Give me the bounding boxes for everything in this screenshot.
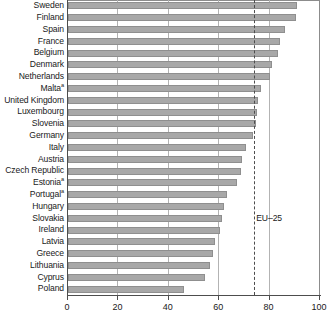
category-label: Ireland [0, 225, 64, 234]
bar [68, 132, 253, 139]
x-tick-20 [117, 296, 118, 300]
bar [68, 26, 285, 33]
x-tick-40 [168, 296, 169, 300]
bar [68, 156, 242, 163]
category-label: Finland [0, 13, 64, 22]
category-label: Slovakia [0, 214, 64, 223]
bar [68, 227, 220, 234]
x-tick-60 [218, 296, 219, 300]
bar [68, 179, 237, 186]
bar [68, 97, 258, 104]
x-tick-0 [67, 296, 68, 300]
bar [68, 85, 261, 92]
category-label: Austria [0, 155, 64, 164]
x-tick-80 [269, 296, 270, 300]
bar [68, 109, 257, 116]
category-label: Denmark [0, 60, 64, 69]
plot-top-border [67, 0, 320, 1]
x-tick-100 [319, 296, 320, 300]
category-label: France [0, 37, 64, 46]
bar [68, 286, 184, 293]
category-label: Spain [0, 25, 64, 34]
category-label: Latvia [0, 237, 64, 246]
bar [68, 250, 213, 257]
plot-right-border [319, 0, 320, 295]
plot-area: 020406080100 EU–25 [67, 0, 320, 295]
bar [68, 73, 270, 80]
bar [68, 61, 272, 68]
bar [68, 14, 296, 21]
category-label: Luxembourg [0, 107, 64, 116]
bar [68, 203, 224, 210]
category-label: Italy [0, 143, 64, 152]
x-axis-line [67, 295, 321, 296]
eu-25-reference-label: EU–25 [256, 213, 282, 223]
bar [68, 168, 241, 175]
category-label: Portugala [0, 190, 64, 199]
x-tick-label-100: 100 [311, 302, 326, 312]
x-tick-label-60: 60 [213, 302, 223, 312]
bar [68, 238, 215, 245]
category-label: United Kingdom [0, 96, 64, 105]
x-tick-label-40: 40 [163, 302, 173, 312]
category-label: Hungary [0, 202, 64, 211]
x-tick-label-80: 80 [264, 302, 274, 312]
category-label: Cyprus [0, 273, 64, 282]
category-label: Germany [0, 131, 64, 140]
bar [68, 120, 256, 127]
bar [68, 144, 246, 151]
bar [68, 215, 222, 222]
x-tick-label-0: 0 [64, 302, 69, 312]
bar [68, 2, 297, 9]
eu-25-reference-line [254, 0, 255, 295]
category-label: Poland [0, 284, 64, 293]
bar [68, 50, 278, 57]
bar [68, 191, 227, 198]
x-tick-label-20: 20 [112, 302, 122, 312]
bar [68, 38, 280, 45]
category-label: Czech Republic [0, 166, 64, 175]
category-label: Greece [0, 249, 64, 258]
category-label: Netherlands [0, 72, 64, 81]
horizontal-bar-chart: SwedenFinlandSpainFranceBelgiumDenmarkNe… [0, 0, 334, 323]
category-label: Lithuania [0, 261, 64, 270]
category-label: Maltaa [0, 84, 64, 93]
category-label: Sweden [0, 1, 64, 10]
category-label: Belgium [0, 48, 64, 57]
bar [68, 262, 210, 269]
category-label: Slovenia [0, 119, 64, 128]
category-label-column: SwedenFinlandSpainFranceBelgiumDenmarkNe… [0, 0, 64, 295]
bar [68, 274, 205, 281]
category-label: Estoniaa [0, 178, 64, 187]
